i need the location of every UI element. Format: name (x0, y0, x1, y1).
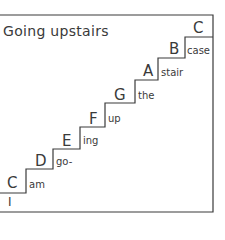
note-c-low: C (7, 176, 17, 191)
word-stair: stair (161, 68, 183, 78)
word-case: case (187, 46, 210, 56)
word-the: the (138, 91, 154, 101)
note-f: F (89, 112, 98, 127)
note-g: G (114, 88, 126, 103)
note-a: A (143, 64, 153, 79)
word-i: I (8, 196, 12, 208)
staircase-line (0, 37, 213, 193)
note-c-high: C (193, 21, 203, 36)
word-up: up (108, 114, 121, 124)
word-go: go- (56, 157, 72, 167)
word-ing: ing (83, 136, 98, 146)
note-d: D (35, 154, 47, 169)
word-am: am (29, 180, 45, 190)
note-b: B (169, 42, 179, 57)
note-e: E (62, 134, 71, 149)
title: Going upstairs (3, 24, 109, 38)
